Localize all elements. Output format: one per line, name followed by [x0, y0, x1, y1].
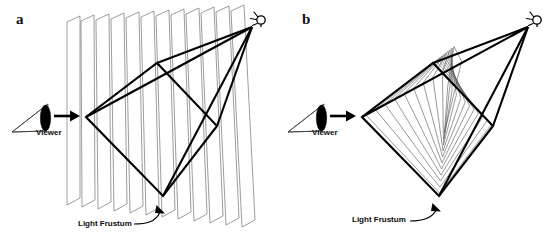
- light-frustum-b: [362, 27, 528, 196]
- leader-arrowhead: [431, 203, 441, 212]
- frustum-leader-b: [410, 203, 441, 221]
- panel-b-graphic: [276, 0, 552, 239]
- viewer-label-b: Viewer: [312, 129, 338, 137]
- viewer-label-a: Viewer: [36, 129, 62, 137]
- panel-a: a: [0, 0, 276, 239]
- arrow-head: [346, 111, 356, 122]
- figure-root: a: [0, 0, 552, 239]
- frustum-label-a: Light Frustum: [78, 220, 132, 228]
- frustum-label-b: Light Frustum: [352, 216, 406, 224]
- viewer-direction-arrow: [330, 111, 356, 122]
- frustum-leader-a: [134, 205, 165, 224]
- leader-arrowhead: [155, 205, 165, 214]
- arrow-head: [70, 111, 80, 122]
- panel-a-graphic: [0, 0, 276, 239]
- slice-plane-group-b: [366, 46, 492, 193]
- light-source-icon: [251, 12, 266, 27]
- light-source-icon: [527, 12, 542, 27]
- panel-b: b: [276, 0, 552, 239]
